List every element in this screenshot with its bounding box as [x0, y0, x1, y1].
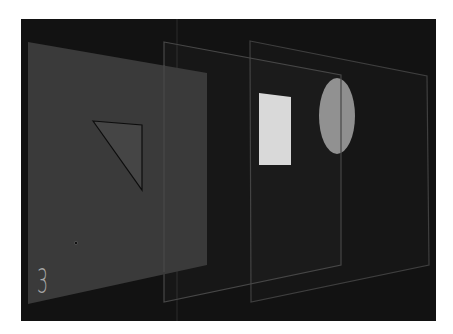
cursor-dot-icon — [74, 241, 77, 244]
diagram-stage: 3 — [0, 0, 453, 334]
layer-front — [28, 42, 207, 304]
layer-number-label: 3 — [37, 261, 48, 301]
layers-diagram: 3 — [0, 0, 453, 334]
